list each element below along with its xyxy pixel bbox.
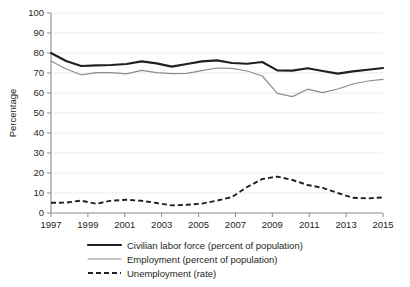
line-chart-svg: 0102030405060708090100 19971999200120032… (0, 0, 410, 287)
legend-label-1: Civilian labor force (percent of populat… (127, 240, 303, 251)
y-tick-label: 100 (28, 7, 44, 18)
series-line-1 (51, 53, 383, 74)
x-tick-label: 2011 (299, 219, 319, 230)
data-series-group (51, 53, 383, 205)
x-tick-label: 2015 (372, 219, 393, 230)
x-tick-label: 1999 (77, 219, 98, 230)
legend-label-2: Employment (percent of population) (127, 254, 278, 265)
y-axis-ticks-group (47, 13, 51, 213)
x-tick-label: 2013 (336, 219, 357, 230)
legend-label-3: Unemployment (rate) (127, 268, 216, 279)
x-tick-label: 1997 (40, 219, 61, 230)
gridlines-group (51, 13, 383, 193)
y-tick-label: 80 (33, 47, 44, 58)
y-tick-label: 90 (33, 27, 44, 38)
y-tick-label: 60 (33, 87, 44, 98)
y-tick-label: 20 (33, 167, 44, 178)
y-tick-label: 70 (33, 67, 44, 78)
series-line-3 (51, 177, 383, 206)
x-tick-label: 2007 (225, 219, 246, 230)
x-axis-ticks-group (51, 213, 383, 217)
series-line-2 (51, 61, 383, 97)
x-tick-label: 2001 (114, 219, 135, 230)
x-tick-label: 2005 (188, 219, 209, 230)
y-tick-label: 40 (33, 127, 44, 138)
y-tick-label: 50 (33, 107, 44, 118)
chart-legend: Civilian labor force (percent of populat… (88, 240, 303, 279)
x-tick-label: 2009 (262, 219, 283, 230)
x-tick-label: 2003 (151, 219, 172, 230)
y-tick-label: 0 (39, 207, 44, 218)
y-axis-tick-labels: 0102030405060708090100 (28, 7, 44, 218)
x-axis-tick-labels: 1997199920012003200520072009201120132015 (40, 219, 393, 230)
y-axis-title: Percentage (7, 89, 18, 138)
chart-figure: 0102030405060708090100 19971999200120032… (0, 0, 410, 287)
y-tick-label: 30 (33, 147, 44, 158)
y-tick-label: 10 (33, 187, 44, 198)
